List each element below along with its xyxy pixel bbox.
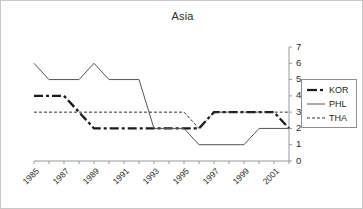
x-axis-tick-label: 1995 [142,166,191,209]
x-axis-tick-label: 1989 [52,166,101,209]
legend-label-kor: KOR [329,85,349,95]
legend-label-tha: THA [329,113,347,123]
x-axis-tick-label: 1997 [172,166,221,209]
x-axis-tick-label: 1987 [22,166,71,209]
legend-item-tha: THA [302,111,356,125]
x-axis-tick-label: 1985 [0,166,41,209]
chart-title: Asia [1,10,363,22]
chart-legend: KOR PHL THA [301,79,357,128]
y-axis-tick-label: 0 [296,155,301,166]
legend-item-phl: PHL [302,97,356,111]
x-axis-tick-label: 1991 [82,166,131,209]
legend-swatch-tha [306,113,326,123]
chart-frame: Asia 01234567 19851987198919911993199519… [0,0,363,209]
legend-swatch-phl [306,99,326,109]
legend-item-kor: KOR [302,83,356,97]
x-axis-tick-label: 1993 [112,166,161,209]
y-axis-tick-label: 1 [296,138,301,149]
x-axis-tick-label: 1999 [202,166,251,209]
chart-svg: 01234567 [34,47,290,161]
legend-swatch-kor [306,85,326,95]
legend-label-phl: PHL [329,99,347,109]
y-axis-tick-label: 7 [296,41,301,52]
y-axis-tick-label: 6 [296,57,301,68]
plot-area: 01234567 [34,47,290,161]
series-line-tha [34,112,289,128]
x-axis-tick-label: 2001 [232,166,281,209]
